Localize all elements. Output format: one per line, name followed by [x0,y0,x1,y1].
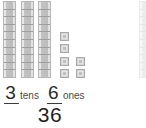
ones-cube-6 [76,69,85,78]
ones-label: ones [63,91,85,101]
rod-unit-cell [4,40,15,48]
rod-unit-cell [39,70,50,77]
rod-unit-cell [4,10,15,18]
rod-unit-cell [4,48,15,56]
tens-label: tens [20,91,39,101]
rod-unit-cell [140,17,146,25]
rod-unit-cell [22,32,33,40]
rod-unit-cell [22,25,33,33]
rod-unit-cell [140,2,146,10]
rod-unit-cell [4,17,15,25]
rod-unit-cell [39,32,50,40]
ones-digit[interactable]: 6 [47,83,62,104]
rod-unit-cell [4,32,15,40]
ones-cube-2 [60,44,69,53]
total-number: 36 [0,104,146,125]
rod-unit-cell [22,17,33,25]
rod-unit-cell [4,25,15,33]
rod-unit-cell [39,48,50,56]
rod-unit-cell [22,55,33,63]
rod-unit-cell [22,70,33,77]
rod-unit-cell [4,55,15,63]
rod-unit-cell [4,63,15,71]
rod-unit-cell [39,2,50,10]
rod-unit-cell [140,10,146,18]
tens-digit[interactable]: 3 [4,83,19,104]
ones-cube-1 [60,32,69,41]
rod-unit-cell [39,40,50,48]
ones-cube-3 [60,57,69,66]
rod-unit-cell [39,17,50,25]
rod-unit-cell [22,63,33,71]
tens-rod-partial-offscreen [139,1,146,78]
rod-unit-cell [4,2,15,10]
rod-unit-cell [4,70,15,77]
base-ten-block-diagram: 3 tens 6 ones 36 [0,0,146,128]
tens-rod-3 [38,1,51,78]
ones-cube-4 [76,57,85,66]
rod-unit-cell [39,25,50,33]
rod-unit-cell [22,48,33,56]
rod-unit-cell [140,25,146,33]
rod-unit-cell [140,70,146,77]
rod-unit-cell [22,2,33,10]
rod-unit-cell [39,55,50,63]
rod-unit-cell [140,55,146,63]
rod-unit-cell [140,32,146,40]
rod-unit-cell [39,63,50,71]
rod-unit-cell [22,10,33,18]
rod-unit-cell [140,48,146,56]
rod-unit-cell [22,40,33,48]
rod-unit-cell [140,63,146,71]
tens-rod-1 [3,1,16,78]
tens-rod-2 [21,1,34,78]
rod-unit-cell [39,10,50,18]
ones-cube-5 [60,69,69,78]
place-value-answer-line: 3 tens 6 ones [0,83,146,105]
rod-unit-cell [140,40,146,48]
